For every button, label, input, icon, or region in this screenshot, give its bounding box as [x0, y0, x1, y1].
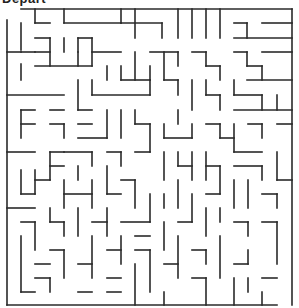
maze-grid	[0, 0, 299, 308]
